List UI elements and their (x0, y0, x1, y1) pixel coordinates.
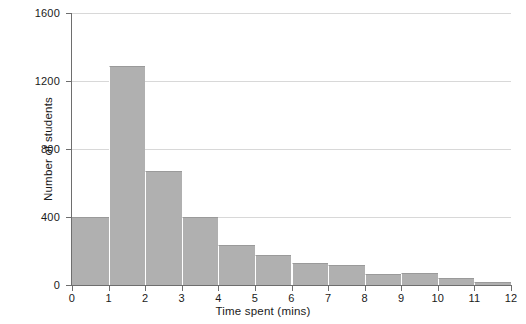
x-axis-tick-label: 3 (179, 292, 185, 304)
histogram-bar (438, 278, 475, 285)
histogram-bar (401, 273, 438, 285)
histogram-bar (292, 263, 329, 285)
histogram-bar (365, 274, 402, 285)
x-axis-tick-label: 8 (361, 292, 367, 304)
x-axis-tick (438, 286, 439, 291)
histogram-bar (328, 265, 365, 285)
x-axis-tick-label: 1 (105, 292, 111, 304)
x-axis-title: Time spent (mins) (0, 305, 526, 317)
gridline (72, 13, 511, 14)
plot-area (72, 13, 511, 285)
x-axis-tick (145, 286, 146, 291)
x-axis-tick-label: 10 (432, 292, 445, 304)
x-axis-tick (401, 286, 402, 291)
x-axis-tick (511, 286, 512, 291)
x-axis-tick-label: 4 (215, 292, 221, 304)
histogram-bar (474, 282, 511, 285)
x-axis-tick-label: 11 (468, 292, 480, 304)
x-axis-tick (365, 286, 366, 291)
histogram-bar (109, 66, 146, 285)
x-axis-tick-label: 0 (69, 292, 75, 304)
x-axis-tick-label: 9 (398, 292, 404, 304)
x-axis-tick-label: 2 (142, 292, 148, 304)
x-axis-tick (109, 286, 110, 291)
y-axis-tick-label: 400 (41, 211, 60, 223)
histogram-chart: Number of students 040080012001600 01234… (0, 0, 526, 324)
x-axis-tick (292, 286, 293, 291)
x-axis-tick (328, 286, 329, 291)
y-axis-tick-label: 1600 (35, 7, 60, 19)
x-axis-tick-label: 7 (325, 292, 331, 304)
x-axis-tick (255, 286, 256, 291)
x-axis-tick-label: 6 (288, 292, 294, 304)
y-axis-tick-label: 1200 (35, 75, 60, 87)
x-axis-tick (218, 286, 219, 291)
x-axis-tick-label: 5 (252, 292, 258, 304)
x-axis-tick (72, 286, 73, 291)
x-axis-tick (474, 286, 475, 291)
x-axis-tick-label: 12 (505, 292, 518, 304)
y-axis-tick-label: 800 (41, 143, 60, 155)
histogram-bar (145, 171, 182, 285)
y-axis-title-holder: Number of students (0, 13, 22, 285)
x-axis-tick (182, 286, 183, 291)
y-axis-tick-label: 0 (54, 279, 60, 291)
histogram-bar (255, 255, 292, 285)
histogram-bar (218, 245, 255, 285)
histogram-bar (72, 217, 109, 285)
histogram-bar (182, 217, 219, 285)
